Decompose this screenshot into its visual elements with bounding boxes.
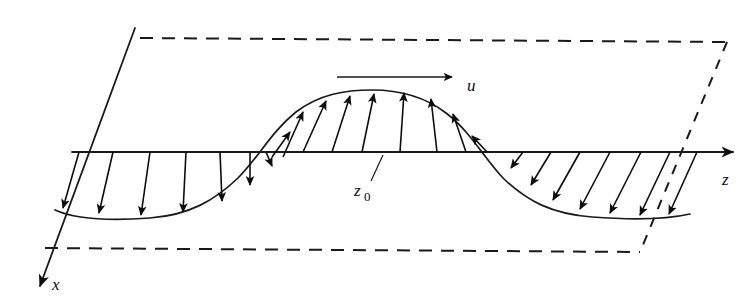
left-trough-vector-group — [63, 152, 272, 215]
crest-vector-group — [272, 93, 487, 157]
bottom-plane-dashed-edge — [45, 248, 640, 252]
velocity-vector — [640, 152, 670, 215]
velocity-vector — [141, 152, 150, 215]
figure-container: u z 0 x z — [0, 0, 754, 303]
right-plane-dashed-edge — [640, 42, 727, 252]
velocity-vector — [531, 152, 551, 185]
velocity-vector — [610, 152, 641, 213]
wavy-surface-velocity-diagram: u z 0 x z — [0, 0, 754, 303]
reference-level-subscript: 0 — [364, 189, 371, 204]
velocity-vector — [553, 152, 580, 200]
velocity-vector — [283, 112, 303, 157]
reference-level-label: z — [353, 181, 361, 200]
velocity-vector — [669, 152, 697, 214]
velocity-vector — [453, 114, 466, 152]
velocity-vector — [272, 132, 290, 157]
velocity-vector — [183, 152, 186, 212]
velocity-vector — [400, 93, 404, 152]
velocity-vector — [580, 152, 610, 209]
velocity-vector — [266, 152, 272, 166]
top-plane-dashed-edge — [140, 38, 727, 42]
velocity-vector — [303, 101, 326, 152]
velocity-vector — [99, 152, 113, 213]
z-axis-label: z — [721, 170, 729, 189]
velocity-vector — [362, 94, 374, 152]
x-axis-label: x — [51, 275, 60, 294]
velocity-vector — [511, 152, 523, 168]
x-axis-line — [40, 28, 135, 286]
z0-leader-line — [371, 155, 383, 181]
velocity-vector — [332, 96, 350, 152]
flow-velocity-label: u — [467, 76, 476, 95]
